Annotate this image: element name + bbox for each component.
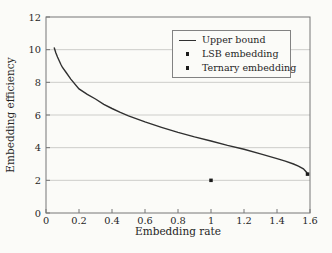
x-tick-label: 0.2: [71, 215, 87, 226]
y-tick-label: 8: [35, 77, 41, 88]
square-marker-icon: [173, 66, 202, 70]
x-tick-label: 1.6: [302, 215, 318, 226]
y-tick-label: 4: [35, 142, 41, 153]
legend-entry-lsb-embedding: LSB embedding: [173, 47, 290, 61]
square-marker-icon: [173, 52, 202, 56]
x-axis-label: Embedding rate: [135, 225, 221, 237]
x-tick-label: 0: [43, 215, 49, 226]
ternary-embedding-point: [306, 172, 310, 176]
line-marker-icon: [173, 40, 202, 41]
y-tick-label: 0: [35, 208, 41, 219]
x-tick-label: 1.4: [269, 215, 285, 226]
y-tick-label: 6: [35, 110, 41, 121]
legend: Upper bound LSB embedding Ternary embedd…: [172, 30, 291, 78]
legend-label: Ternary embedding: [202, 61, 296, 75]
y-tick-label: 10: [29, 44, 41, 55]
legend-entry-upper-bound: Upper bound: [173, 33, 290, 47]
embedding-efficiency-chart: 00.20.40.60.811.21.41.6024681012 Embeddi…: [0, 0, 332, 253]
y-tick-label: 2: [35, 175, 41, 186]
y-axis-label: Embedding efficiency: [4, 57, 16, 172]
legend-label: Upper bound: [202, 33, 265, 47]
x-tick-label: 0.4: [104, 215, 120, 226]
x-tick-label: 1.2: [236, 215, 252, 226]
legend-label: LSB embedding: [202, 47, 279, 61]
legend-entry-ternary-embedding: Ternary embedding: [173, 61, 290, 75]
y-tick-label: 12: [29, 12, 41, 23]
lsb-embedding-point: [209, 179, 213, 183]
